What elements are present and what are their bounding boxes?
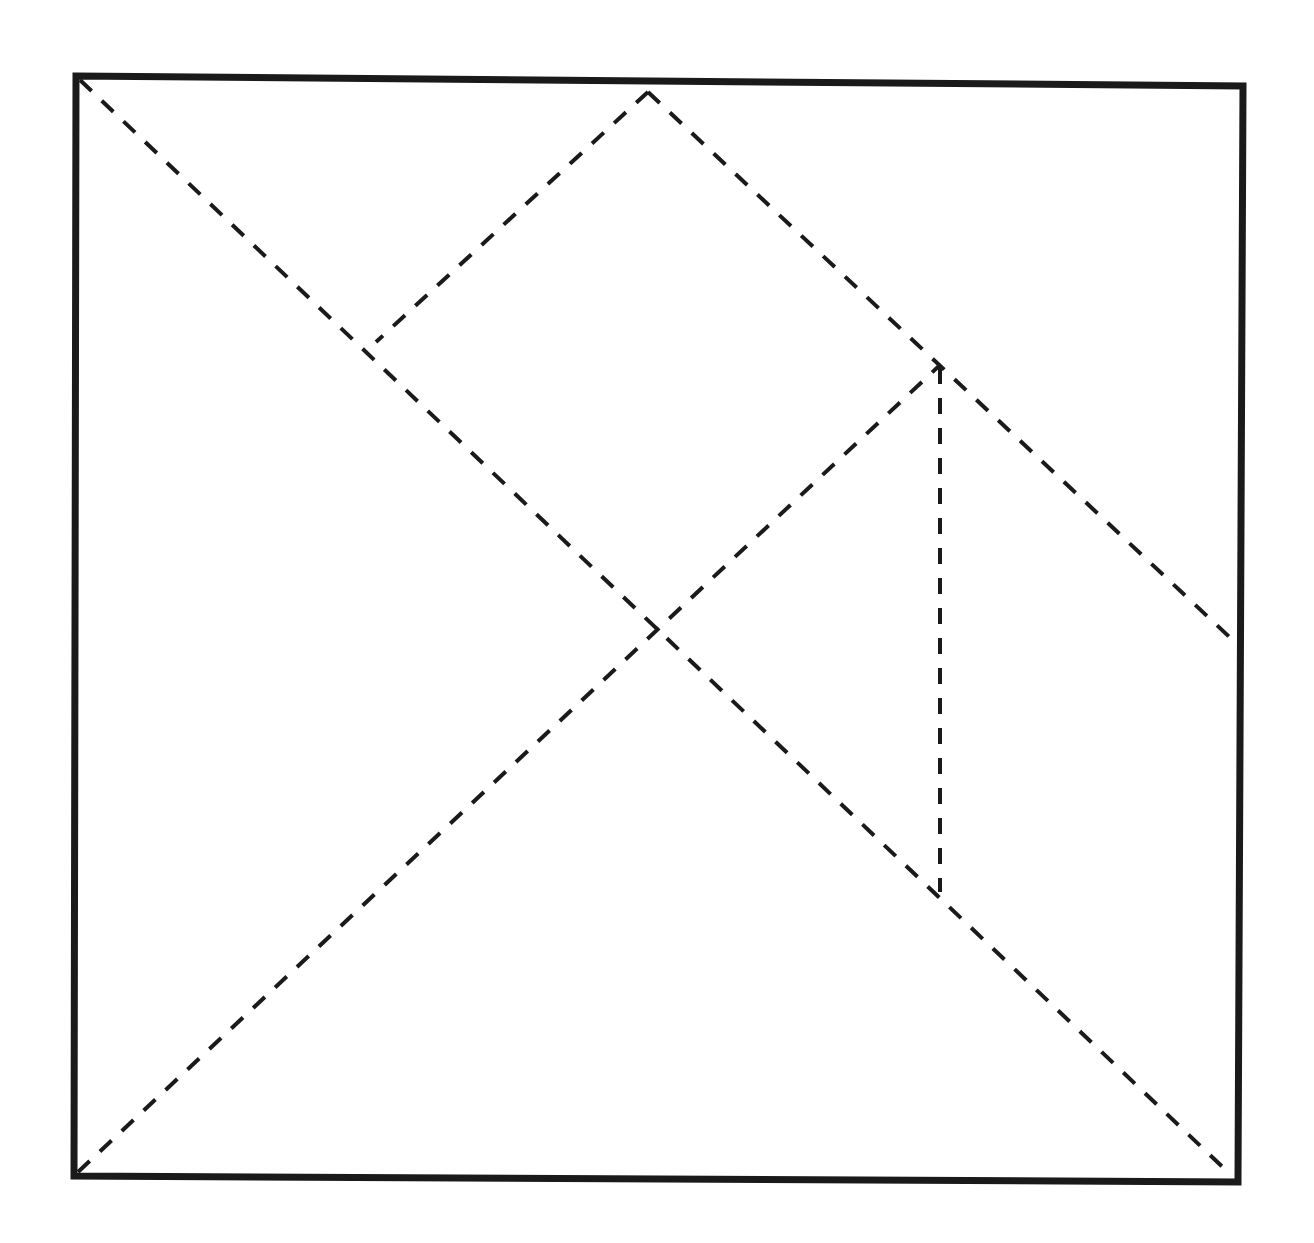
background <box>0 0 1314 1243</box>
tangram-diagram <box>0 0 1314 1243</box>
